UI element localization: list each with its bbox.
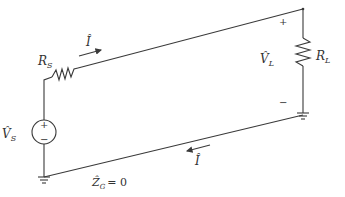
current-bottom-label: Î bbox=[194, 153, 201, 168]
circuit-diagram: + − RS Î V̂S ẐG= 0 Î V̂L RL + − bbox=[0, 0, 345, 197]
source-plus: + bbox=[40, 119, 48, 130]
load-resistor-icon bbox=[296, 38, 310, 66]
rs-label: RS bbox=[37, 54, 53, 70]
load-plus: + bbox=[279, 16, 287, 27]
current-arrow-top-icon bbox=[79, 50, 101, 56]
load-minus: − bbox=[279, 97, 287, 108]
vl-label: V̂L bbox=[260, 51, 274, 68]
bottom-wire bbox=[44, 115, 303, 177]
vs-label: V̂S bbox=[2, 126, 17, 143]
left-wire-upper bbox=[44, 77, 52, 120]
current-arrow-bottom-icon bbox=[187, 145, 210, 151]
source-resistor-icon bbox=[52, 68, 78, 80]
zg-label: ẐG= 0 bbox=[91, 175, 127, 191]
source-minus: − bbox=[40, 134, 48, 145]
rl-label: RL bbox=[315, 49, 330, 65]
ground-icon-left bbox=[38, 177, 50, 183]
current-top-label: Î bbox=[85, 34, 92, 49]
